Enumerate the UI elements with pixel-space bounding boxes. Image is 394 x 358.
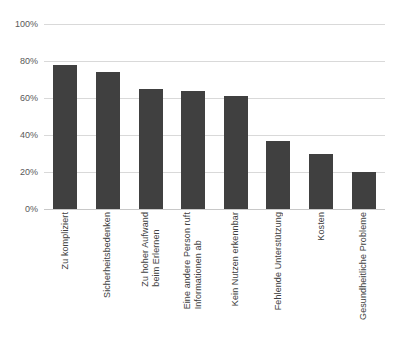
bar[interactable] xyxy=(309,154,333,210)
x-axis-label-slot: Eine andere Person ruft Informationen ab xyxy=(172,212,215,358)
x-axis-label-slot: Kosten xyxy=(300,212,343,358)
x-axis-label-slot: Kein Nutzen erkennbar xyxy=(215,212,258,358)
bar-slot xyxy=(215,24,258,209)
x-axis-tick-label: Kosten xyxy=(316,212,327,241)
x-axis-tick-label: Zu hoher Aufwand beim Erlernen xyxy=(140,212,162,287)
x-axis-label-slot: Fehlende Unterstützung xyxy=(257,212,300,358)
y-axis-tick-label: 0% xyxy=(25,204,38,214)
x-axis-label-wrap: Zu kompliziert xyxy=(44,212,87,358)
x-axis-label-slot: Sicherheitsbedenken xyxy=(87,212,130,358)
x-axis-label-slot: Gesundheitliche Probleme xyxy=(342,212,385,358)
x-axis-label-wrap: Sicherheitsbedenken xyxy=(87,212,130,358)
x-axis-label-slot: Zu hoher Aufwand beim Erlernen xyxy=(129,212,172,358)
x-axis-label-wrap: Zu hoher Aufwand beim Erlernen xyxy=(129,212,172,358)
bar[interactable] xyxy=(96,72,120,209)
y-axis-tick-label: 80% xyxy=(20,56,38,66)
x-axis-tick-label: Fehlende Unterstützung xyxy=(273,212,284,310)
bar[interactable] xyxy=(181,91,205,209)
bar[interactable] xyxy=(266,141,290,209)
bar-slot xyxy=(87,24,130,209)
bar-slot xyxy=(300,24,343,209)
bar-slot xyxy=(342,24,385,209)
bar-slot xyxy=(129,24,172,209)
x-axis-tick-label: Gesundheitliche Probleme xyxy=(358,212,369,320)
bar[interactable] xyxy=(224,96,248,209)
x-axis-label-wrap: Kosten xyxy=(300,212,343,358)
x-axis-label-wrap: Gesundheitliche Probleme xyxy=(342,212,385,358)
x-axis-tick-label: Kein Nutzen erkennbar xyxy=(230,212,241,306)
bars-layer xyxy=(44,24,385,209)
bar[interactable] xyxy=(139,89,163,209)
bar-slot xyxy=(257,24,300,209)
x-axis-tick-label: Eine andere Person ruft Informationen ab xyxy=(182,212,204,309)
x-axis-label-wrap: Eine andere Person ruft Informationen ab xyxy=(172,212,215,358)
x-axis-tick-label: Zu kompliziert xyxy=(60,212,71,269)
gridline-0 xyxy=(44,209,385,210)
x-axis: Zu kompliziertSicherheitsbedenkenZu hohe… xyxy=(44,212,385,358)
y-axis: 0%20%40%60%80%100% xyxy=(0,0,44,358)
y-axis-tick-label: 100% xyxy=(15,19,38,29)
x-axis-label-slot: Zu kompliziert xyxy=(44,212,87,358)
bar[interactable] xyxy=(352,172,376,209)
y-axis-tick-label: 40% xyxy=(20,130,38,140)
x-axis-tick-label: Sicherheitsbedenken xyxy=(102,212,113,298)
x-axis-label-wrap: Kein Nutzen erkennbar xyxy=(215,212,258,358)
y-axis-tick-label: 20% xyxy=(20,167,38,177)
bar-slot xyxy=(172,24,215,209)
y-axis-tick-label: 60% xyxy=(20,93,38,103)
bar-slot xyxy=(44,24,87,209)
bar-chart: 0%20%40%60%80%100% Zu kompliziertSicherh… xyxy=(0,0,394,358)
x-axis-label-wrap: Fehlende Unterstützung xyxy=(257,212,300,358)
bar[interactable] xyxy=(53,65,77,209)
